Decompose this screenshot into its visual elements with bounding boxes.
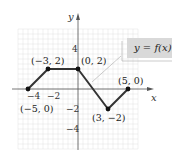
x-tick-label: −4 <box>27 91 41 101</box>
data-point <box>26 87 31 92</box>
x-axis-label: x <box>151 92 157 103</box>
data-point <box>46 67 51 72</box>
point-label: (−3, 2) <box>31 55 65 66</box>
point-label: (0, 2) <box>81 55 107 66</box>
x-tick-label: −2 <box>47 91 60 101</box>
point-label: (−5, 0) <box>20 103 54 114</box>
data-point <box>106 107 111 112</box>
point-label: (3, −2) <box>92 112 126 123</box>
y-axis-label: y <box>67 11 74 22</box>
y-tick-label: 4 <box>72 44 78 54</box>
y-tick-label: −2 <box>66 104 79 114</box>
legend-label: y = f(x) <box>133 42 172 53</box>
data-point <box>76 67 81 72</box>
x-axis-arrow-icon <box>147 87 154 91</box>
y-tick-label: −4 <box>66 124 80 134</box>
data-point <box>126 87 131 92</box>
point-label: (5, 0) <box>118 75 144 86</box>
function-graph: x y −4 −2 4 −2 −4 y = f(x) (−5, 0) (−3, … <box>0 0 181 155</box>
y-axis-arrow-icon <box>76 13 80 20</box>
